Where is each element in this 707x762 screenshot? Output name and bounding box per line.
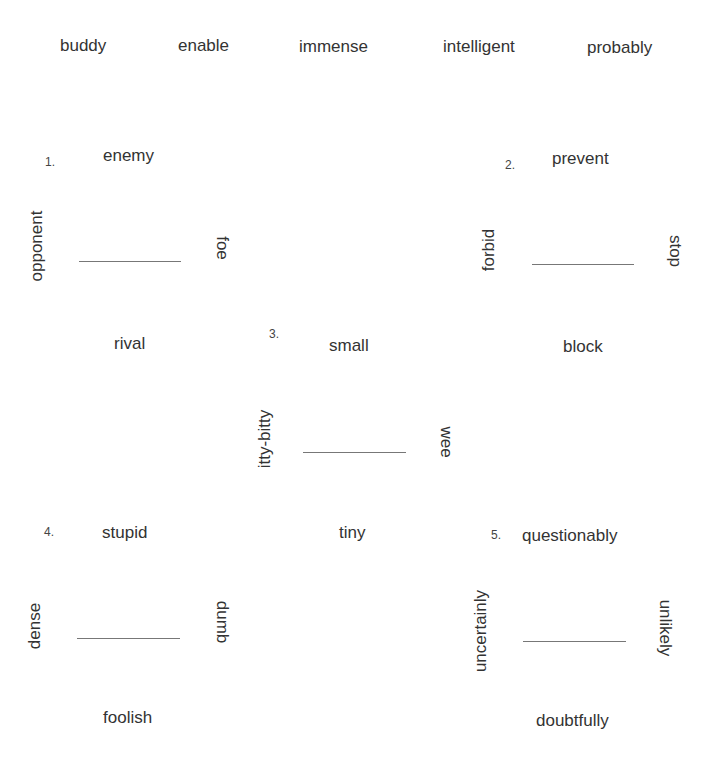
clue-bottom: doubtfully bbox=[536, 711, 609, 731]
word-bank-item: immense bbox=[299, 37, 368, 57]
answer-blank[interactable] bbox=[523, 641, 626, 642]
word-bank-item: probably bbox=[587, 38, 652, 58]
word-bank-item: buddy bbox=[60, 36, 106, 56]
answer-blank[interactable] bbox=[303, 452, 406, 453]
word-bank-item: intelligent bbox=[443, 37, 515, 57]
clue-left: dense bbox=[25, 601, 45, 651]
puzzle-number: 4. bbox=[44, 525, 54, 539]
clue-right: stop bbox=[665, 231, 685, 271]
clue-top: prevent bbox=[552, 149, 609, 169]
puzzle-number: 1. bbox=[45, 155, 55, 169]
clue-left: itty-bitty bbox=[255, 399, 275, 479]
puzzle-number: 3. bbox=[269, 327, 279, 341]
answer-blank[interactable] bbox=[532, 264, 634, 265]
word-bank-item: enable bbox=[178, 36, 229, 56]
clue-top: enemy bbox=[103, 146, 154, 166]
clue-top: small bbox=[329, 336, 369, 356]
clue-bottom: block bbox=[563, 337, 603, 357]
clue-left: forbid bbox=[479, 225, 499, 275]
clue-right: foe bbox=[212, 228, 232, 268]
clue-right: dumb bbox=[212, 597, 232, 647]
clue-bottom: tiny bbox=[339, 523, 365, 543]
clue-left: opponent bbox=[27, 206, 47, 286]
clue-bottom: foolish bbox=[103, 708, 152, 728]
answer-blank[interactable] bbox=[79, 261, 181, 262]
clue-right: unlikely bbox=[655, 593, 675, 663]
puzzle-number: 2. bbox=[505, 158, 515, 172]
clue-left: uncertainly bbox=[471, 586, 491, 676]
clue-bottom: rival bbox=[114, 334, 145, 354]
puzzle-number: 5. bbox=[491, 528, 501, 542]
answer-blank[interactable] bbox=[77, 638, 180, 639]
clue-right: wee bbox=[436, 422, 456, 462]
clue-top: stupid bbox=[102, 523, 147, 543]
clue-top: questionably bbox=[522, 526, 617, 546]
